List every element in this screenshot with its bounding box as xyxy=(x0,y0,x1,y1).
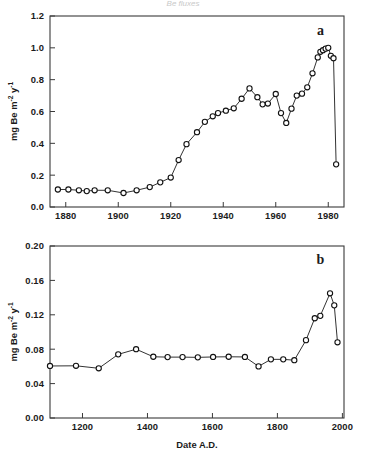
x-tick-label: 1920 xyxy=(160,210,181,221)
data-point xyxy=(147,185,152,190)
data-point xyxy=(168,175,173,180)
data-point xyxy=(134,188,139,193)
panel-b-letter-label: b xyxy=(317,252,325,267)
x-tick-label: 1960 xyxy=(265,210,286,221)
data-point xyxy=(332,303,337,308)
panel-b-tick-marks xyxy=(50,246,342,418)
data-point xyxy=(312,316,317,321)
data-point xyxy=(335,340,340,345)
data-point xyxy=(294,93,299,98)
data-point xyxy=(210,114,215,119)
data-point xyxy=(292,358,297,363)
data-point xyxy=(215,110,220,115)
panel-b-plot-frame xyxy=(50,246,344,418)
panel-b-y-axis-title: mg Be m-2 y-1 xyxy=(7,302,19,361)
data-point xyxy=(281,357,286,362)
y-tick-label: 0.12 xyxy=(25,309,44,320)
panel-b-data-markers xyxy=(47,291,340,371)
data-point xyxy=(133,347,138,352)
data-point xyxy=(184,142,189,147)
data-point xyxy=(195,355,200,360)
panel-a-svg: 0.00.20.40.60.81.01.2 188019001920194019… xyxy=(0,0,366,232)
data-point xyxy=(310,71,315,76)
data-point xyxy=(76,188,81,193)
panel-a-x-tick-labels: 188019001920194019601980 xyxy=(55,210,339,221)
y-tick-label: 0.20 xyxy=(25,240,44,251)
y-tick-label: 0.04 xyxy=(25,378,44,389)
x-tick-label: 1200 xyxy=(72,421,93,432)
data-point xyxy=(318,313,323,318)
data-point xyxy=(66,187,71,192)
y-tick-label: 0.8 xyxy=(31,74,44,85)
data-point xyxy=(268,357,273,362)
data-point xyxy=(84,188,89,193)
data-point xyxy=(305,85,310,90)
x-tick-label: 1600 xyxy=(202,421,223,432)
data-point xyxy=(273,91,278,96)
data-point xyxy=(226,354,231,359)
y-tick-label: 0.16 xyxy=(25,275,44,286)
panel-a-series-line xyxy=(58,48,336,193)
y-tick-label: 0.00 xyxy=(25,412,44,423)
chart-panel-a: 0.00.20.40.60.81.01.2 188019001920194019… xyxy=(0,0,366,232)
data-point xyxy=(299,91,304,96)
data-point xyxy=(278,110,283,115)
chart-panel-b: 0.000.040.080.120.160.20 120014001600180… xyxy=(0,232,366,471)
data-point xyxy=(47,363,52,368)
y-tick-label: 1.0 xyxy=(31,42,44,53)
x-tick-label: 1940 xyxy=(213,210,234,221)
data-point xyxy=(180,355,185,360)
data-point xyxy=(260,102,265,107)
panel-b-x-tick-labels: 12001400160018002000 xyxy=(72,421,353,432)
data-point xyxy=(242,354,247,359)
data-point xyxy=(231,106,236,111)
data-point xyxy=(210,354,215,359)
data-point xyxy=(105,188,110,193)
y-tick-label: 0.2 xyxy=(31,170,44,181)
panel-a-data-markers xyxy=(55,45,338,195)
panel-a-y-axis-title: mg Be m-2 y-1 xyxy=(7,82,19,141)
data-point xyxy=(223,108,228,113)
data-point xyxy=(303,338,308,343)
panel-b-y-tick-labels: 0.000.040.080.120.160.20 xyxy=(25,240,44,423)
data-point xyxy=(239,96,244,101)
data-point xyxy=(116,352,121,357)
x-tick-label: 1980 xyxy=(318,210,339,221)
svg-text:mg Be m-2 y-1: mg Be m-2 y-1 xyxy=(7,82,19,141)
data-point xyxy=(92,188,97,193)
svg-text:mg Be m-2 y-1: mg Be m-2 y-1 xyxy=(7,302,19,361)
panel-b-series-line xyxy=(50,293,338,368)
y-tick-label: 0.6 xyxy=(31,106,44,117)
panel-a-plot-frame xyxy=(50,16,344,207)
y-tick-label: 0.0 xyxy=(31,201,44,212)
data-point xyxy=(158,180,163,185)
data-point xyxy=(73,363,78,368)
panel-a-tick-marks xyxy=(50,16,328,207)
y-tick-label: 1.2 xyxy=(31,10,44,21)
data-point xyxy=(176,157,181,162)
panel-b-x-axis-title: Date A.D. xyxy=(176,439,217,450)
data-point xyxy=(194,130,199,135)
data-point xyxy=(315,55,320,60)
data-point xyxy=(334,162,339,167)
data-point xyxy=(284,120,289,125)
x-tick-label: 1800 xyxy=(267,421,288,432)
data-point xyxy=(151,354,156,359)
figure-container: 0.00.20.40.60.81.01.2 188019001920194019… xyxy=(0,0,366,471)
data-point xyxy=(55,187,60,192)
panel-b-svg: 0.000.040.080.120.160.20 120014001600180… xyxy=(0,232,366,471)
data-point xyxy=(327,291,332,296)
data-point xyxy=(121,190,126,195)
x-tick-label: 1900 xyxy=(108,210,129,221)
data-point xyxy=(289,106,294,111)
y-tick-label: 0.08 xyxy=(25,344,44,355)
data-point xyxy=(256,364,261,369)
data-point xyxy=(331,56,336,61)
panel-a-y-tick-labels: 0.00.20.40.60.81.01.2 xyxy=(31,10,45,212)
panel-a-letter-label: a xyxy=(317,23,324,38)
data-point xyxy=(265,101,270,106)
y-tick-label: 0.4 xyxy=(31,138,45,149)
x-tick-label: 1880 xyxy=(55,210,76,221)
data-point xyxy=(247,86,252,91)
x-tick-label: 2000 xyxy=(332,421,353,432)
